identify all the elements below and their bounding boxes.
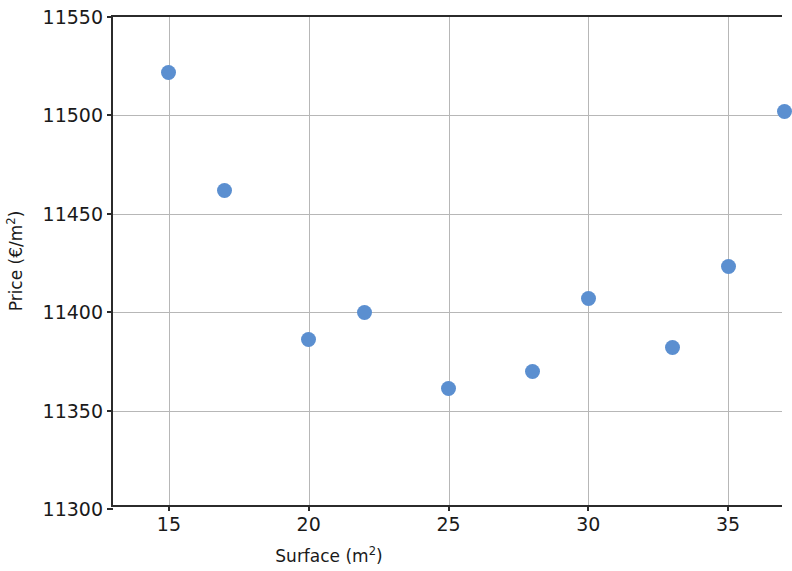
scatter-point [301, 332, 316, 347]
y-tick-mark [107, 508, 113, 510]
x-axis-title: Surface (m2) [0, 546, 782, 566]
scatter-point [357, 305, 372, 320]
y-tick-mark [107, 213, 113, 215]
plot-area: 113001135011400114501150011550 152025303… [111, 15, 782, 507]
x-tick-label: 25 [436, 515, 460, 534]
scatter-point [441, 381, 456, 396]
y-axis-title: Price (€/m2) [6, 15, 28, 507]
x-tick-label: 35 [716, 515, 740, 534]
y-tick-mark [107, 410, 113, 412]
scatter-point [777, 104, 792, 119]
y-tick-label: 11350 [43, 401, 103, 420]
y-tick-label: 11550 [43, 8, 103, 27]
x-tick-mark [308, 505, 310, 511]
data-points-layer [113, 17, 782, 505]
y-tick-label: 11300 [43, 500, 103, 519]
x-tick-mark [727, 505, 729, 511]
scatter-point [161, 65, 176, 80]
x-tick-mark [448, 505, 450, 511]
x-axis-title-text: Surface (m2) [275, 546, 382, 566]
scatter-point [581, 291, 596, 306]
scatter-point [721, 259, 736, 274]
y-tick-label: 11500 [43, 106, 103, 125]
x-tick-mark [587, 505, 589, 511]
y-tick-mark [107, 16, 113, 18]
y-tick-mark [107, 311, 113, 313]
x-tick-label: 20 [297, 515, 321, 534]
x-tick-label: 15 [157, 515, 181, 534]
scatter-point [525, 364, 540, 379]
x-tick-mark [168, 505, 170, 511]
x-tick-label: 30 [576, 515, 600, 534]
y-tick-label: 11400 [43, 303, 103, 322]
scatter-point [217, 183, 232, 198]
y-axis-title-wrap: Price (€/m2) [14, 15, 36, 507]
y-tick-label: 11450 [43, 204, 103, 223]
scatter-point [665, 340, 680, 355]
y-tick-mark [107, 114, 113, 116]
